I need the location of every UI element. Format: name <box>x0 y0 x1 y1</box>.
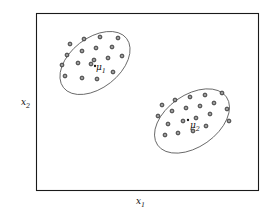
data-point <box>65 53 69 57</box>
mu1-subscript: 1 <box>102 67 106 75</box>
mu2-subscript: 2 <box>196 125 200 133</box>
mean-label-mu2: μ2 <box>190 121 200 132</box>
data-point <box>163 133 167 137</box>
x-axis-label-subscript: 1 <box>141 201 145 209</box>
data-point <box>166 122 170 126</box>
data-point <box>68 42 72 46</box>
data-point <box>80 76 84 80</box>
data-point <box>176 131 180 135</box>
plot-canvas <box>0 0 274 219</box>
data-point <box>170 109 174 113</box>
data-point <box>227 119 231 123</box>
data-point <box>110 45 114 49</box>
data-point <box>225 107 229 111</box>
data-point <box>80 49 84 53</box>
data-point <box>156 114 160 118</box>
data-point <box>204 124 208 128</box>
x-axis-label: x1 <box>136 197 145 208</box>
data-point <box>95 77 99 81</box>
data-point <box>82 37 86 41</box>
data-point <box>160 103 164 107</box>
data-point <box>60 63 64 67</box>
data-point <box>76 61 80 65</box>
data-point <box>220 91 224 95</box>
y-axis-label-subscript: 2 <box>26 102 30 110</box>
data-point <box>116 36 120 40</box>
data-point <box>184 106 188 110</box>
data-point <box>89 62 93 66</box>
data-point <box>208 112 212 116</box>
mean-label-mu1: μ1 <box>96 63 106 74</box>
data-point <box>198 104 202 108</box>
data-point <box>203 93 207 97</box>
data-point <box>181 119 185 123</box>
data-point <box>188 95 192 99</box>
data-point <box>98 35 102 39</box>
data-point <box>106 56 110 60</box>
data-point <box>120 54 124 58</box>
data-point <box>111 70 115 74</box>
data-point <box>173 98 177 102</box>
data-point <box>212 101 216 105</box>
mean-marker-2 <box>187 119 189 121</box>
scatter-figure: x1 x2 μ1 μ2 <box>0 0 274 219</box>
data-point <box>63 74 67 78</box>
y-axis-label: x2 <box>21 98 30 109</box>
plot-frame <box>37 14 259 191</box>
data-point <box>94 46 98 50</box>
